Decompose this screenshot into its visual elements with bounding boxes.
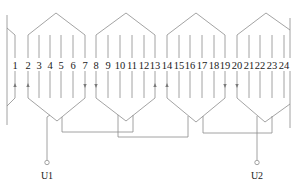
slot-label: 20 xyxy=(232,60,243,71)
arrow-down-icon xyxy=(83,84,86,88)
slot-label: 18 xyxy=(209,60,220,71)
slot-label: 15 xyxy=(174,60,185,71)
slot-label: 5 xyxy=(58,60,63,71)
arrow-up-icon xyxy=(165,83,168,87)
slot-label: 17 xyxy=(197,60,208,71)
arrow-down-icon xyxy=(94,84,97,88)
slot-label: 12 xyxy=(139,60,150,71)
arrow-up-icon xyxy=(13,83,16,87)
arrow-up-icon xyxy=(26,83,29,87)
slot-label: 2 xyxy=(25,60,30,71)
terminal-circle-icon xyxy=(45,160,49,164)
current-arrows xyxy=(13,83,238,88)
terminal-u1: U1 xyxy=(41,160,53,181)
winding-diagram: 1 2 3 4 5 6 7 8 9 10 11 12 13 14 15 16 1… xyxy=(0,0,297,187)
slot-label: 9 xyxy=(105,60,110,71)
terminal-circle-icon xyxy=(255,160,259,164)
slot-label: 7 xyxy=(82,60,87,71)
slot-label: 22 xyxy=(255,60,266,71)
arrow-up-icon xyxy=(153,83,156,87)
arrow-down-icon xyxy=(235,84,238,88)
slot-label: 11 xyxy=(127,60,137,71)
slot-label: 23 xyxy=(267,60,278,71)
slot-label: 24 xyxy=(279,60,290,71)
slot-label: 13 xyxy=(150,60,161,71)
inter-coil-connections xyxy=(47,115,272,160)
terminal-label-u2: U2 xyxy=(251,170,263,181)
slot-label: 19 xyxy=(220,60,231,71)
slot-label: 14 xyxy=(162,60,173,71)
slot-label: 4 xyxy=(47,60,53,71)
slot-label: 3 xyxy=(36,60,41,71)
slot-label: 10 xyxy=(115,60,126,71)
slot-numbers: 1 2 3 4 5 6 7 8 9 10 11 12 13 14 15 16 1… xyxy=(9,58,294,71)
slot-label: 21 xyxy=(244,60,255,71)
slot-label: 1 xyxy=(12,60,17,71)
arrow-down-icon xyxy=(223,84,226,88)
terminal-u2: U2 xyxy=(251,160,263,181)
terminal-label-u1: U1 xyxy=(41,170,53,181)
slot-label: 8 xyxy=(93,60,98,71)
slot-label: 6 xyxy=(70,60,75,71)
slot-label: 16 xyxy=(185,60,196,71)
